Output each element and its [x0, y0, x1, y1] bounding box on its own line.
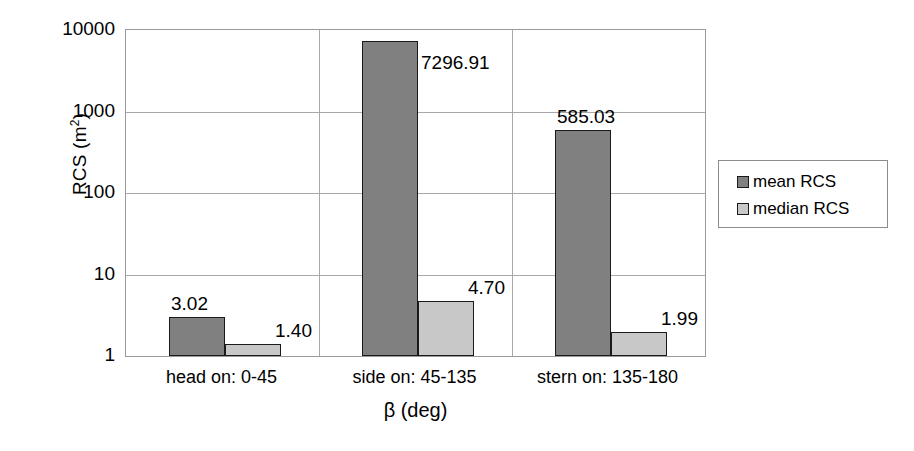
- bar-mean[interactable]: [555, 130, 611, 356]
- chart-figure: RCS (m2) 100001000100101 3.021.407296.91…: [0, 0, 914, 451]
- legend-label-median-rcs: median RCS: [753, 200, 849, 217]
- bar-value-label: 1.99: [661, 309, 698, 328]
- y-axis-tick-label: 1: [5, 345, 115, 364]
- bar-value-label: 1.40: [275, 321, 312, 340]
- y-axis-tick-label: 10000: [5, 19, 115, 38]
- legend-swatch-median-rcs: [737, 203, 749, 215]
- x-axis-category-label: head on: 0-45: [125, 366, 318, 388]
- y-axis-tick-label: 1000: [5, 101, 115, 120]
- gridline-vertical: [319, 30, 320, 356]
- legend-swatch-mean-rcs: [737, 176, 749, 188]
- bar-value-label: 7296.91: [421, 53, 490, 72]
- x-axis-category-label: side on: 45-135: [318, 366, 511, 388]
- bar-value-label: 585.03: [557, 107, 615, 126]
- x-axis-title: β (deg): [125, 398, 706, 422]
- legend-label-mean-rcs: mean RCS: [753, 173, 836, 190]
- x-axis-category-label: stern on: 135-180: [511, 366, 704, 388]
- y-axis-tick-labels: 100001000100101: [0, 29, 115, 357]
- plot-area: 3.021.407296.914.70585.031.99: [125, 29, 706, 357]
- legend-item-median-rcs[interactable]: median RCS: [737, 195, 887, 222]
- bar-mean[interactable]: [362, 41, 418, 356]
- legend-item-mean-rcs[interactable]: mean RCS: [737, 168, 887, 195]
- bar-value-label: 3.02: [171, 294, 208, 313]
- chart-legend: mean RCS median RCS: [718, 160, 888, 228]
- bar-median[interactable]: [225, 344, 281, 356]
- bar-mean[interactable]: [169, 317, 225, 356]
- bar-value-label: 4.70: [468, 278, 505, 297]
- gridline-vertical: [512, 30, 513, 356]
- y-axis-tick-label: 10: [5, 264, 115, 283]
- bar-median[interactable]: [611, 332, 667, 356]
- y-axis-tick-label: 100: [5, 182, 115, 201]
- bar-median[interactable]: [418, 301, 474, 356]
